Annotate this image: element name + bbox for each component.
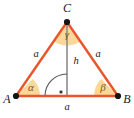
vertex-label-a: A	[2, 92, 11, 106]
side-label-ac: a	[33, 48, 38, 59]
triangle-figure: A B C a a a α β γ h	[0, 0, 134, 118]
vertex-dot-a	[13, 93, 19, 99]
vertex-label-c: C	[63, 1, 72, 15]
angle-label-beta: β	[99, 81, 106, 93]
vertex-label-b: B	[123, 92, 131, 106]
angle-label-alpha: α	[28, 81, 34, 93]
right-angle-arc	[45, 74, 67, 96]
angle-wedge-beta	[94, 79, 118, 96]
side-label-bc: a	[95, 48, 100, 59]
side-ac-line	[16, 22, 67, 96]
vertex-dot-b	[115, 93, 121, 99]
vertex-dot-c	[64, 19, 70, 25]
right-angle-dot-icon	[60, 91, 63, 94]
altitude-label-h: h	[73, 55, 78, 66]
geometry-diagram: A B C a a a α β γ h	[0, 0, 134, 118]
angle-label-gamma: γ	[65, 28, 70, 40]
side-label-ab: a	[64, 101, 69, 112]
